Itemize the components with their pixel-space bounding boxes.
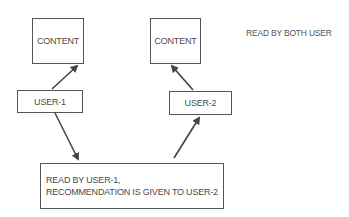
content-right-label: CONTENT <box>154 36 196 46</box>
arrow-user2-to-content <box>172 66 193 90</box>
user2-label: USER-2 <box>185 98 217 108</box>
user1-box: USER-1 <box>17 90 83 113</box>
content-box-left: CONTENT <box>32 18 84 64</box>
user2-box: USER-2 <box>169 91 232 115</box>
recommendation-line2: RECOMMENDATION IS GIVEN TO USER-2 <box>46 186 218 198</box>
read-by-both-note: READ BY BOTH USER <box>246 28 332 38</box>
user1-label: USER-1 <box>34 97 66 107</box>
content-left-label: CONTENT <box>37 36 79 46</box>
recommendation-line1: READ BY USER-1, <box>46 174 218 186</box>
arrow-recommendation-to-user2 <box>174 118 199 158</box>
arrow-user1-to-content <box>52 66 77 89</box>
arrow-user1-to-recommendation <box>55 113 78 159</box>
content-box-right: CONTENT <box>150 18 201 64</box>
recommendation-box: READ BY USER-1, RECOMMENDATION IS GIVEN … <box>40 163 224 209</box>
